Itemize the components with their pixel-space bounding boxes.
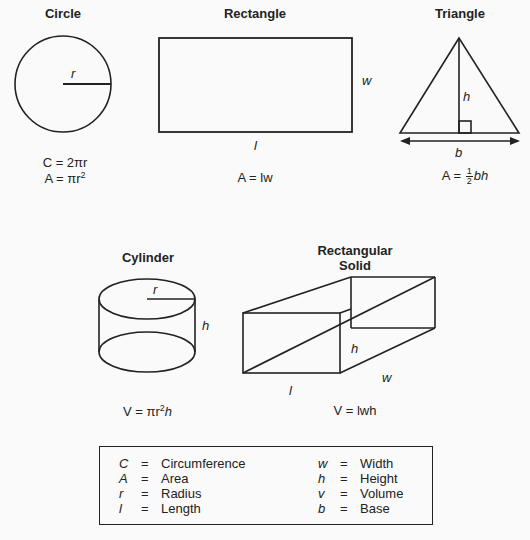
rectangle-width-label: w — [362, 73, 371, 88]
solid-height-label: h — [351, 341, 358, 356]
triangle-area-formula: A = 12bh — [430, 167, 500, 186]
cylinder-volume-formula: V = πr2h — [110, 403, 185, 419]
rectangle-title: Rectangle — [215, 6, 295, 21]
right-angle-marker — [459, 121, 471, 133]
solid-length-label: l — [289, 383, 292, 398]
cylinder-height-label: h — [202, 318, 209, 333]
rectangle-length-label: l — [254, 138, 257, 153]
solid-width-label: w — [382, 370, 391, 385]
cylinder-bottom — [99, 332, 195, 372]
rectangle-area-formula: A = lw — [225, 170, 285, 185]
rectangular-solid-title: RectangularSolid — [300, 243, 410, 273]
circle-area-formula: A = πr2 — [30, 170, 100, 186]
solid-front-face — [243, 313, 340, 373]
triangle-base-label: b — [455, 145, 462, 160]
triangle-height-label: h — [463, 89, 470, 104]
cylinder-radius-label: r — [153, 282, 157, 297]
circle-radius-label: r — [71, 66, 75, 81]
circle-title: Circle — [30, 6, 96, 21]
rectangle-shape — [159, 38, 352, 132]
variable-legend: C=Circumference A=Area r=Radius l=Length… — [99, 446, 433, 525]
solid-volume-formula: V = lwh — [325, 403, 385, 418]
triangle-title: Triangle — [430, 6, 490, 21]
cylinder-title: Cylinder — [115, 250, 181, 265]
circle-circumference-formula: C = 2πr — [30, 155, 100, 170]
